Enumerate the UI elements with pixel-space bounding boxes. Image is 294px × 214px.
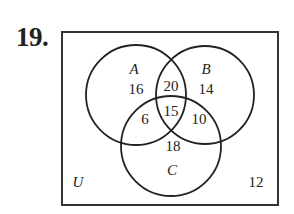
region-a-only: 16 [129,81,145,97]
set-c-label: C [167,162,178,178]
region-b-only: 14 [199,81,215,97]
region-a-and-b: 20 [164,78,179,94]
universe-label: U [73,174,85,190]
set-b-label: B [201,61,210,77]
region-c-only: 18 [166,138,181,154]
region-b-and-c: 10 [192,111,207,127]
set-a-label: A [128,61,139,77]
venn-diagram: A B C U 16 20 14 6 15 10 18 12 [0,0,294,214]
region-a-b-c: 15 [164,103,179,119]
region-outside: 12 [249,174,264,190]
region-a-and-c: 6 [141,111,149,127]
